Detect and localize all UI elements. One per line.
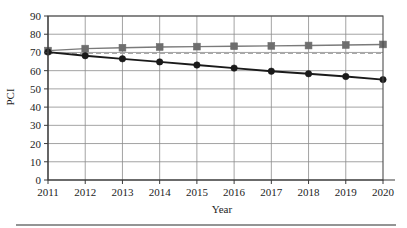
y-tick-label: 20: [30, 138, 42, 150]
data-point-marker: [156, 59, 162, 65]
chart-figure: 0102030405060708090 20112012201320142015…: [0, 0, 407, 228]
data-point-marker: [156, 44, 163, 51]
data-point-marker: [305, 71, 311, 77]
data-point-marker: [193, 43, 200, 50]
data-point-marker: [268, 68, 274, 74]
y-axis-ticks: 0102030405060708090: [30, 10, 48, 186]
y-tick-label: 0: [36, 174, 42, 186]
y-tick-label: 90: [30, 10, 42, 22]
x-tick-label: 2019: [335, 186, 358, 198]
y-axis-title: PCI: [4, 88, 16, 105]
y-tick-label: 60: [30, 65, 42, 77]
data-point-marker: [343, 73, 349, 79]
y-tick-label: 70: [30, 46, 42, 58]
x-tick-label: 2016: [223, 186, 246, 198]
y-tick-label: 40: [30, 101, 42, 113]
y-tick-label: 10: [30, 156, 42, 168]
data-series-layer: [45, 41, 387, 83]
y-tick-label: 30: [30, 119, 42, 131]
data-point-marker: [82, 53, 88, 59]
plot-border: [48, 16, 395, 180]
data-point-marker: [119, 44, 126, 51]
plot-area-border: [48, 16, 383, 180]
data-point-marker: [305, 42, 312, 49]
y-tick-label: 80: [30, 28, 42, 40]
x-tick-label: 2011: [37, 186, 59, 198]
series-line-upper-square-series: [48, 44, 383, 50]
data-point-marker: [342, 42, 349, 49]
series-line-lower-circle-series: [48, 52, 383, 80]
x-tick-label: 2017: [260, 186, 283, 198]
data-point-marker: [268, 42, 275, 49]
data-point-marker: [82, 45, 89, 52]
x-tick-label: 2013: [111, 186, 134, 198]
x-tick-label: 2014: [149, 186, 172, 198]
x-axis-ticks: 2011201220132014201520162017201820192020: [37, 180, 394, 198]
line-chart: 0102030405060708090 20112012201320142015…: [0, 0, 407, 228]
data-point-marker: [231, 43, 238, 50]
x-tick-label: 2012: [74, 186, 96, 198]
x-axis-title: Year: [212, 203, 233, 215]
x-tick-label: 2020: [372, 186, 395, 198]
data-point-marker: [119, 56, 125, 62]
x-tick-label: 2018: [298, 186, 321, 198]
gridlines: [48, 16, 383, 180]
data-point-marker: [194, 62, 200, 68]
y-tick-label: 50: [30, 83, 42, 95]
x-tick-label: 2015: [186, 186, 209, 198]
data-point-marker: [231, 65, 237, 71]
